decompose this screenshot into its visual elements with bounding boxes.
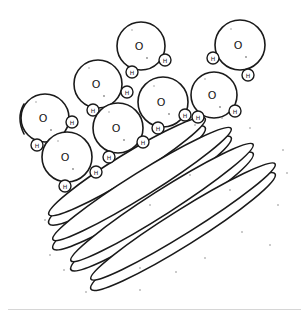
- bottom-divider: [8, 309, 301, 310]
- speckle: [123, 139, 125, 141]
- oxygen-label: O: [112, 122, 121, 135]
- speckle: [229, 189, 231, 191]
- hydrogen-atom: H: [126, 66, 138, 78]
- speckle: [249, 127, 251, 129]
- speckle: [57, 140, 58, 141]
- hydrogen-label: H: [246, 72, 251, 79]
- speckle: [49, 254, 51, 256]
- hydrogen-label: H: [107, 154, 112, 161]
- hydrogen-label: H: [130, 69, 135, 76]
- speckle: [269, 244, 271, 246]
- hydrogen-label: H: [183, 112, 188, 119]
- water-molecule: OHH: [117, 22, 171, 78]
- speckle: [277, 204, 279, 206]
- speckle: [108, 111, 109, 112]
- speckle: [245, 56, 247, 58]
- speckle: [204, 78, 205, 79]
- hydrogen-label: H: [141, 139, 146, 146]
- speckle: [131, 29, 132, 30]
- speckle: [219, 106, 221, 108]
- hydrogen-label: H: [163, 57, 168, 64]
- hydrogen-label: H: [125, 89, 130, 96]
- hydrogen-atom: H: [31, 139, 43, 151]
- speckle: [103, 95, 105, 97]
- oxygen-label: O: [39, 112, 48, 125]
- speckle: [35, 101, 36, 102]
- hydrogen-label: H: [211, 55, 216, 62]
- speckle: [204, 257, 206, 259]
- speckle: [194, 124, 196, 126]
- hydrogen-atom: H: [159, 54, 171, 66]
- speckle: [221, 117, 223, 119]
- speckle: [286, 172, 288, 174]
- speckle: [168, 113, 170, 115]
- oxygen-label: O: [208, 89, 217, 102]
- hydrogen-atom: H: [179, 109, 191, 121]
- oxygen-label: O: [61, 151, 70, 164]
- speckle: [153, 85, 154, 86]
- hydrogen-atom: H: [121, 86, 133, 98]
- oxygen-label: O: [157, 96, 166, 109]
- speckle: [230, 28, 231, 29]
- speckle: [139, 267, 141, 269]
- oxygen-label: O: [92, 78, 101, 91]
- hydrogen-label: H: [233, 108, 238, 115]
- oxygen-label: O: [234, 39, 243, 52]
- speckle: [149, 204, 151, 206]
- speckle: [139, 289, 141, 291]
- hydrogen-label: H: [156, 125, 161, 132]
- water-molecule: OHH: [191, 72, 241, 123]
- speckle: [189, 174, 191, 176]
- hydrogen-atom: H: [242, 69, 254, 81]
- speckle: [88, 67, 89, 68]
- speckle: [241, 231, 243, 233]
- hydrogen-atom: H: [229, 105, 241, 117]
- speckle: [63, 269, 65, 271]
- hydrogen-atom: H: [192, 111, 204, 123]
- hydrogen-label: H: [196, 114, 201, 121]
- hydrogen-label: H: [91, 107, 96, 114]
- hydrogen-atom: H: [137, 136, 149, 148]
- hydrogen-label: H: [35, 142, 40, 149]
- hydrogen-label: H: [94, 169, 99, 176]
- speckle: [282, 149, 284, 151]
- hydrogen-atom: H: [90, 166, 102, 178]
- speckle: [44, 219, 46, 221]
- speckle: [72, 168, 74, 170]
- drawing-canvas: OHHOHHOHHOHHOHHOHHOHHOHH: [0, 0, 303, 312]
- speckle: [146, 57, 148, 59]
- speckle: [175, 271, 177, 273]
- hydrogen-atom: H: [66, 116, 78, 128]
- hydrogen-atom: H: [207, 52, 219, 64]
- speckle: [50, 129, 52, 131]
- speckle: [85, 291, 87, 293]
- oxygen-label: O: [135, 40, 144, 53]
- hydrogen-atom: H: [59, 180, 71, 192]
- hydrogen-atom: H: [103, 151, 115, 163]
- hydrogen-label: H: [70, 119, 75, 126]
- hydrogen-label: H: [63, 183, 68, 190]
- hydrogen-atom: H: [152, 122, 164, 134]
